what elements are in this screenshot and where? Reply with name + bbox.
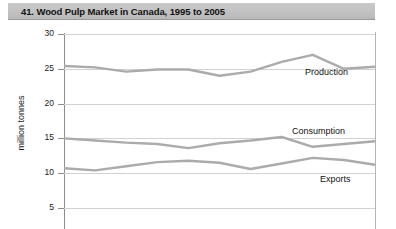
page-title: 41. Wood Pulp Market in Canada, 1995 to …: [21, 5, 225, 18]
series-label-production: Production: [305, 67, 348, 77]
line-consumption: [64, 137, 375, 148]
line-exports: [64, 158, 375, 171]
chart-figure: 41. Wood Pulp Market in Canada, 1995 to …: [0, 0, 396, 229]
chart-canvas: 30252015105 million tonnes Production Co…: [0, 22, 396, 229]
series-label-exports: Exports: [320, 174, 351, 184]
series-label-consumption: Consumption: [292, 126, 345, 136]
figure-title-bar: 41. Wood Pulp Market in Canada, 1995 to …: [8, 3, 375, 20]
